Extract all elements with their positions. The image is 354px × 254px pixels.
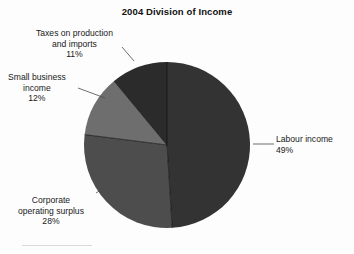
pie-label-taxes-on-production-and-imports: Taxes on production and imports 11% <box>36 28 113 60</box>
pie-slice-corporate-operating-surplus <box>84 135 172 228</box>
pie-label-taxes-percent: 11% <box>36 49 113 60</box>
pie-label-labour-percent: 49% <box>276 145 333 156</box>
pie-label-labour-line1: Labour income <box>276 134 333 144</box>
pie-label-corporate-operating-surplus: Corporate operating surplus 28% <box>18 195 84 227</box>
pie-label-corporate-percent: 28% <box>18 216 84 227</box>
pie-label-labour-income: Labour income 49% <box>276 134 333 155</box>
pie-label-taxes-line1: Taxes on production <box>36 28 113 38</box>
pie-label-small-business-income: Small business income 12% <box>8 72 66 104</box>
pie-label-taxes-line2: and imports <box>52 39 97 49</box>
footer-rule <box>22 245 92 246</box>
leader-line-taxes <box>122 47 134 61</box>
leader-line-small-business <box>78 88 105 98</box>
pie-chart-figure: 2004 Division of Income Taxes on product… <box>0 0 354 254</box>
pie-label-small-business-line2: income <box>23 83 51 93</box>
pie-label-small-business-line1: Small business <box>8 72 66 82</box>
pie-label-corporate-line2: operating surplus <box>18 206 84 216</box>
pie-label-small-business-percent: 12% <box>8 93 66 104</box>
pie-label-corporate-line1: Corporate <box>32 195 70 205</box>
pie-slice-labour-income <box>167 62 250 228</box>
